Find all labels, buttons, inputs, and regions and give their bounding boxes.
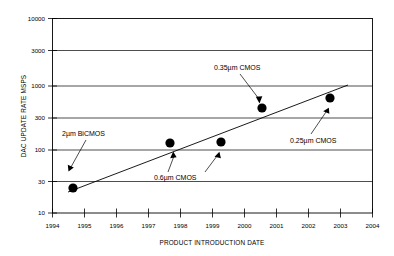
arrowhead-icon bbox=[215, 152, 221, 159]
annotation-2um-bicmos: 2µm BiCMOS bbox=[62, 130, 105, 172]
data-point-06um-cmos-a[interactable] bbox=[165, 138, 174, 147]
x-axis-tick-labels: 1994 1995 1996 1997 1998 1999 2000 2001 … bbox=[46, 222, 380, 229]
data-point-035um-cmos[interactable] bbox=[257, 103, 266, 112]
arrowhead-icon bbox=[323, 108, 329, 114]
y-tick-10000: 10000 bbox=[28, 15, 46, 22]
x-tick-2000: 2000 bbox=[238, 222, 252, 229]
data-point-025um-cmos[interactable] bbox=[325, 93, 334, 102]
x-tick-2002: 2002 bbox=[302, 222, 316, 229]
y-axis-tick-labels: 10000 3000 1000 300 100 30 10 bbox=[28, 15, 46, 217]
chart-container: 10000 3000 1000 300 100 30 10 1994 1995 bbox=[0, 0, 394, 256]
x-tick-1998: 1998 bbox=[174, 222, 188, 229]
plot-frame bbox=[53, 19, 373, 214]
annotation-2um-bicmos-label: 2µm BiCMOS bbox=[62, 130, 105, 138]
annotation-06um-cmos: 0.6µm CMOS bbox=[154, 152, 221, 183]
y-axis-title: DAC UPDATE RATE MSPS bbox=[20, 75, 27, 158]
x-tick-2003: 2003 bbox=[334, 222, 348, 229]
x-tick-1997: 1997 bbox=[142, 222, 156, 229]
x-tick-2001: 2001 bbox=[270, 222, 284, 229]
annotation-06um-cmos-label: 0.6µm CMOS bbox=[154, 174, 197, 182]
x-tick-1999: 1999 bbox=[206, 222, 220, 229]
annotation-035um-cmos: 0.35µm CMOS bbox=[214, 64, 262, 104]
y-tick-10: 10 bbox=[38, 209, 45, 216]
data-point-2um-bicmos[interactable] bbox=[68, 183, 77, 192]
dac-update-rate-scatter-chart: 10000 3000 1000 300 100 30 10 1994 1995 bbox=[0, 0, 394, 256]
arrowhead-icon bbox=[256, 96, 262, 103]
annotation-025um-cmos-label: 0.25µm CMOS bbox=[290, 137, 337, 145]
data-point-06um-cmos-b[interactable] bbox=[216, 137, 225, 146]
x-tick-1995: 1995 bbox=[78, 222, 92, 229]
y-tick-300: 300 bbox=[35, 114, 46, 121]
y-tick-100: 100 bbox=[35, 146, 46, 153]
x-tick-1994: 1994 bbox=[46, 222, 60, 229]
annotation-035um-cmos-label: 0.35µm CMOS bbox=[214, 64, 261, 72]
y-tick-3000: 3000 bbox=[31, 47, 45, 54]
y-tick-1000: 1000 bbox=[31, 82, 45, 89]
arrowhead-icon bbox=[68, 165, 74, 172]
x-axis-title: PRODUCT INTRODUCTION DATE bbox=[159, 239, 264, 246]
annotation-025um-cmos: 0.25µm CMOS bbox=[290, 108, 337, 145]
x-tick-1996: 1996 bbox=[110, 222, 124, 229]
y-tick-30: 30 bbox=[38, 178, 45, 185]
x-tick-2004: 2004 bbox=[366, 222, 380, 229]
